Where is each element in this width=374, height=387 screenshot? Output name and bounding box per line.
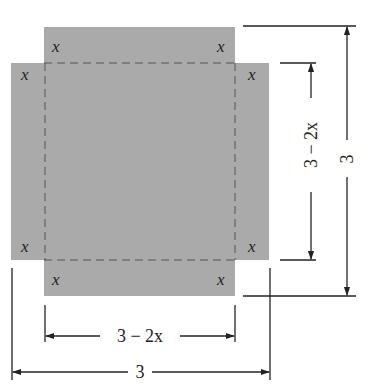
outer-height-label: 3: [337, 155, 357, 164]
top-flap: [44, 27, 235, 63]
corner-label-bottom-left-tab: x: [51, 270, 60, 289]
corner-label-right-upper: x: [247, 65, 256, 84]
corner-label-top-right-tab: x: [216, 37, 225, 56]
box-net-diagram: x x x x x x x x 3 − 2x 3 3 − 2x: [0, 0, 374, 387]
corner-label-left-lower: x: [20, 237, 29, 256]
corner-label-left-upper: x: [20, 65, 29, 84]
center-band: [11, 63, 269, 260]
inner-height-label: 3 − 2x: [301, 122, 321, 168]
corner-label-right-lower: x: [247, 237, 256, 256]
corner-label-top-left-tab: x: [51, 37, 60, 56]
net-shape: [11, 27, 269, 296]
bottom-flap: [44, 260, 235, 296]
inner-width-label: 3 − 2x: [117, 326, 163, 346]
corner-label-bottom-right-tab: x: [216, 270, 225, 289]
outer-width-label: 3: [136, 362, 145, 382]
